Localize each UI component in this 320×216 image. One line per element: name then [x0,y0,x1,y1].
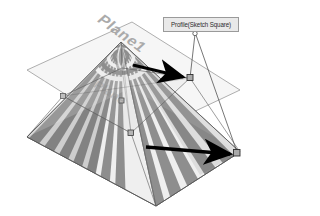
sketch-handle-base-front [128,130,134,136]
sketch-handle-upper [187,75,193,81]
sketch-handle-left [61,94,66,99]
sketch-handle-base-right [234,150,241,157]
profile-callout-label: Profile(Sketch Square) [171,21,231,28]
profile-callout-box[interactable]: Profile(Sketch Square) [163,17,239,32]
